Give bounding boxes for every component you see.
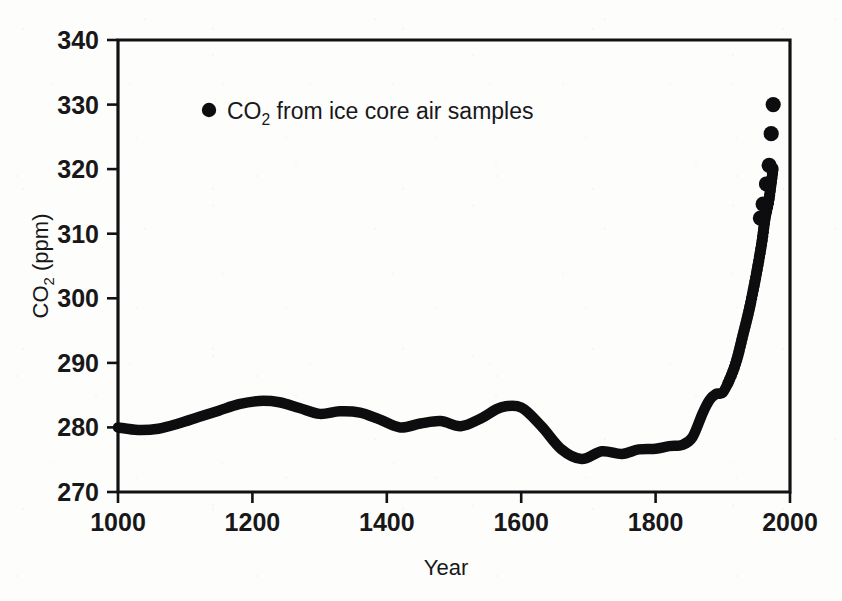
x-tick-label-1000: 1000 <box>90 508 146 536</box>
y-tick-label-300: 300 <box>57 284 99 312</box>
legend-label-lead: CO <box>227 98 262 124</box>
y-tick-label-290: 290 <box>57 349 99 377</box>
co2-data-points <box>722 164 778 388</box>
x-tick-label-1200: 1200 <box>225 508 281 536</box>
y-axis-title-lead: CO <box>28 285 53 318</box>
x-axis-tick-labels: 1000 1200 1400 1600 1800 2000 <box>90 508 818 536</box>
legend-marker-icon <box>202 103 216 117</box>
x-tick-label-1400: 1400 <box>359 508 415 536</box>
co2-recent-data-points <box>753 97 781 226</box>
legend-label-subscript: 2 <box>262 111 271 128</box>
x-tick-label-1800: 1800 <box>628 508 684 536</box>
co2-trace-line <box>118 168 773 459</box>
y-axis-title-tail: (ppm) <box>28 214 53 278</box>
y-axis-title: CO2 (ppm) <box>28 214 57 319</box>
data-point <box>764 126 779 141</box>
y-tick-label-280: 280 <box>57 413 99 441</box>
svg-text:CO2 (ppm): CO2 (ppm) <box>28 214 57 319</box>
y-axis-tick-labels: 340 330 320 310 300 290 280 270 <box>57 26 99 506</box>
y-axis-title-subscript: 2 <box>40 277 57 285</box>
co2-ice-core-chart: 340 330 320 310 300 290 280 270 1000 120… <box>0 0 842 601</box>
chart-legend: CO2 from ice core air samples <box>202 98 534 128</box>
data-series-co2 <box>118 97 781 459</box>
x-axis-ticks <box>118 492 790 503</box>
data-point <box>759 176 774 191</box>
x-tick-label-2000: 2000 <box>762 508 818 536</box>
figure-canvas: 340 330 320 310 300 290 280 270 1000 120… <box>0 0 842 601</box>
y-tick-label-320: 320 <box>57 155 99 183</box>
x-axis-title: Year <box>424 555 468 580</box>
data-point <box>756 196 771 211</box>
data-point <box>766 97 781 112</box>
x-tick-label-1600: 1600 <box>493 508 549 536</box>
y-tick-label-270: 270 <box>57 478 99 506</box>
data-point <box>762 158 777 173</box>
y-tick-label-330: 330 <box>57 91 99 119</box>
y-tick-label-310: 310 <box>57 220 99 248</box>
data-point <box>753 211 768 226</box>
legend-label-tail: from ice core air samples <box>270 98 533 124</box>
y-tick-label-340: 340 <box>57 26 99 54</box>
legend-label: CO2 from ice core air samples <box>227 98 534 128</box>
